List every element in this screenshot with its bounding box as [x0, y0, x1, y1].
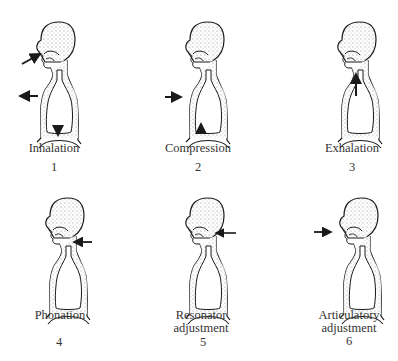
figure-compression	[165, 22, 230, 148]
figure-exhalation	[338, 22, 382, 148]
figure-inhalation	[20, 22, 81, 148]
figure-resonator-adjustment	[186, 198, 236, 324]
figure-articulatory-adjustment	[314, 198, 384, 324]
figure-number-1: 1	[51, 160, 57, 175]
caption-phonation: Phonation	[35, 309, 86, 322]
mouth-inward-arrow-icon	[22, 54, 40, 64]
figure-number-6: 6	[346, 334, 352, 349]
figure-number-3: 3	[349, 160, 355, 175]
caption-compression: Compression	[165, 142, 231, 155]
caption-resonator-adjustment: Resonator adjustment	[174, 309, 229, 335]
speech-production-diagram	[0, 0, 398, 361]
caption-articulatory-adjustment: Articulatory adjustment	[318, 309, 379, 335]
figure-number-5: 5	[200, 335, 206, 350]
caption-exhalation: Exhalation	[325, 142, 379, 155]
figure-number-2: 2	[195, 160, 201, 175]
figure-number-4: 4	[56, 335, 62, 350]
caption-inhalation: Inhalation	[29, 142, 80, 155]
caption-line-2: adjustment	[174, 322, 229, 335]
figure-phonation	[46, 198, 92, 324]
